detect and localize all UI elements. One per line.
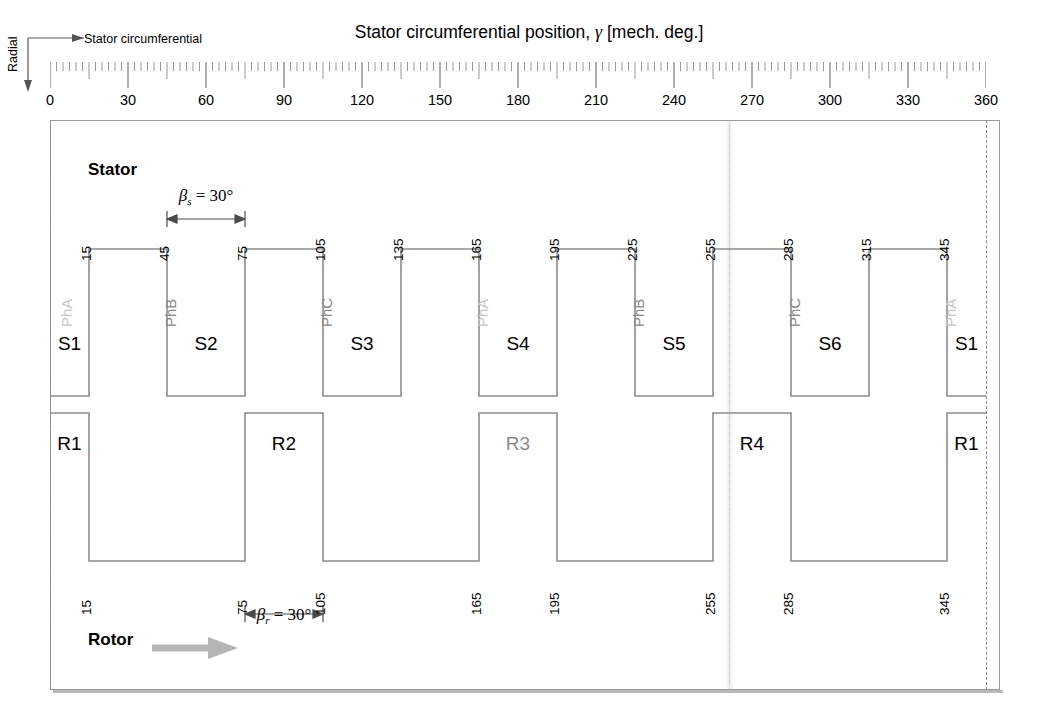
beta-r-value: = 30° <box>274 605 312 624</box>
beta-s-value: = 30° <box>196 186 234 205</box>
beta-r-annotation: βr = 30° <box>257 605 312 626</box>
beta-s-symbol: βs <box>179 186 192 205</box>
beta-annotations: βs = 30°βr = 30° <box>0 0 1058 717</box>
beta-r-symbol: βr <box>257 605 270 624</box>
beta-s-annotation: βs = 30° <box>179 186 234 207</box>
